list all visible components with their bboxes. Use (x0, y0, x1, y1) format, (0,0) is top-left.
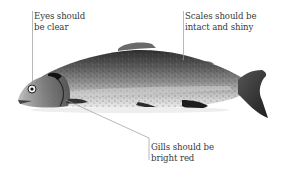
dorsal-fin (118, 43, 156, 51)
tail-fin (238, 70, 268, 118)
callout-eyes-line-1: Eyes should (34, 11, 85, 22)
callout-scales: Scales should be intact and shiny (185, 11, 256, 33)
callout-scales-line-2: intact and shiny (185, 22, 256, 33)
callout-gills: Gills should be bright red (151, 142, 214, 164)
fish-freshness-diagram: Eyes should be clear Scales should be in… (0, 0, 283, 173)
callout-gills-line-1: Gills should be (151, 142, 214, 153)
callout-scales-line-1: Scales should be (185, 11, 256, 22)
callout-gills-line-2: bright red (151, 153, 214, 164)
callout-eyes: Eyes should be clear (34, 11, 85, 33)
callout-eyes-line-2: be clear (34, 22, 85, 33)
